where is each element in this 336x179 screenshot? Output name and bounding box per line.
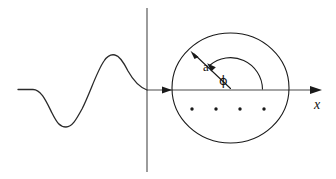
x-axis [147,86,322,94]
lattice-points [190,107,265,110]
incident-wave-packet [18,55,147,127]
figure-container: a ϕ x [0,0,336,179]
radius-label-a: a [203,60,209,73]
x-axis-label: x [314,98,320,112]
figure-canvas [0,0,336,179]
angle-label-phi: ϕ [219,74,228,87]
